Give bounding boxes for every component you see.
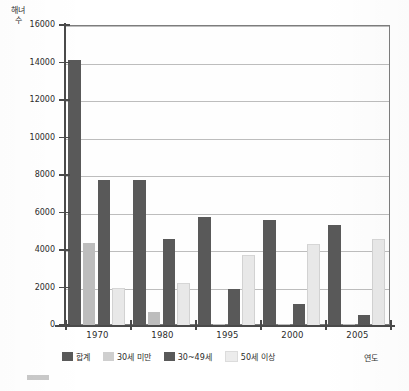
bar — [242, 255, 255, 325]
bar — [198, 217, 211, 325]
bar — [98, 180, 111, 325]
y-tick-label: 2000 — [21, 283, 55, 292]
y-tick — [59, 174, 70, 176]
chart-figure: 해녀 수 02000400060008000100001200014000160… — [0, 0, 409, 391]
x-tick — [390, 320, 392, 330]
x-tick — [195, 320, 197, 330]
x-tick — [130, 320, 132, 330]
bar — [328, 225, 341, 325]
bar — [372, 239, 385, 325]
bars-layer — [65, 25, 390, 325]
y-tick — [59, 212, 70, 214]
chart-legend: 합계30세 미만30~49세50세 이상 — [62, 349, 288, 363]
x-axis-title: 연도 — [364, 352, 378, 363]
bar — [358, 315, 371, 325]
bar — [307, 244, 320, 325]
y-tick-label: 14000 — [21, 58, 55, 67]
legend-swatch-icon — [225, 351, 238, 362]
x-tick-label: 1995 — [216, 330, 238, 340]
bar — [177, 283, 190, 325]
legend-swatch-icon — [103, 352, 114, 361]
legend-item[interactable]: 30세 미만 — [103, 351, 151, 362]
x-tick-label: 2000 — [281, 330, 303, 340]
scan-artifact-mark — [27, 375, 49, 380]
x-tick — [325, 320, 327, 330]
x-tick-label: 1980 — [151, 330, 173, 340]
bar — [148, 312, 161, 325]
x-tick-label: 1970 — [86, 330, 108, 340]
y-tick-label: 4000 — [21, 245, 55, 254]
x-axis-line — [55, 325, 395, 327]
bar — [112, 288, 125, 325]
bar — [133, 180, 146, 325]
y-tick — [59, 137, 70, 139]
legend-label: 30~49세 — [178, 351, 212, 362]
bar — [163, 239, 176, 325]
legend-item[interactable]: 50세 이상 — [225, 351, 275, 362]
legend-item[interactable]: 30~49세 — [164, 351, 212, 362]
y-tick-label: 16000 — [21, 20, 55, 29]
x-tick-label: 2005 — [346, 330, 368, 340]
bar — [68, 60, 81, 325]
y-tick — [59, 24, 70, 26]
legend-swatch-icon — [164, 352, 175, 361]
y-tick-label: 0 — [21, 320, 55, 329]
bar — [293, 304, 306, 325]
y-tick-label: 10000 — [21, 133, 55, 142]
legend-item[interactable]: 합계 — [62, 351, 90, 362]
y-tick — [59, 99, 70, 101]
bar — [263, 220, 276, 325]
legend-label: 50세 이상 — [241, 351, 275, 362]
y-tick-label: 6000 — [21, 208, 55, 217]
bar — [83, 243, 96, 326]
legend-swatch-icon — [62, 352, 73, 361]
y-tick-label: 12000 — [21, 95, 55, 104]
y-tick — [59, 287, 70, 289]
y-tick — [59, 249, 70, 251]
y-tick-label: 8000 — [21, 170, 55, 179]
legend-label: 30세 미만 — [117, 351, 151, 362]
x-tick — [260, 320, 262, 330]
y-tick — [59, 62, 70, 64]
bar — [228, 289, 241, 325]
x-tick — [65, 320, 67, 330]
legend-label: 합계 — [76, 351, 90, 362]
